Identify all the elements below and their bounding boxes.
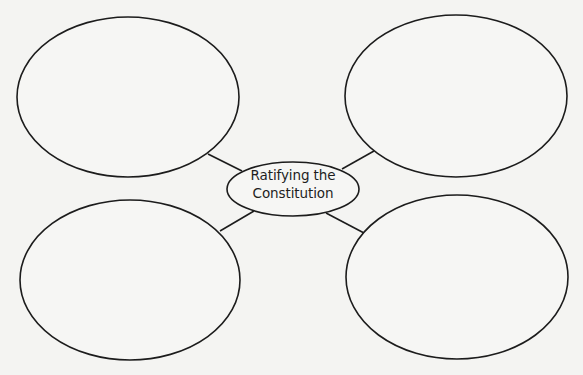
center-label-line-2: Constitution xyxy=(227,184,359,202)
bubble-bottom-left[interactable] xyxy=(20,200,240,360)
bubble-bottom-right[interactable] xyxy=(346,195,568,359)
center-label-line-1: Ratifying the xyxy=(227,166,359,184)
center-topic-label: Ratifying the Constitution xyxy=(227,166,359,202)
bubble-top-left[interactable] xyxy=(17,17,239,177)
worksheet-page: Ratifying the Constitution xyxy=(0,0,583,375)
connector-bottom-right xyxy=(326,213,364,233)
connector-bottom-left xyxy=(220,211,254,231)
bubble-top-right[interactable] xyxy=(345,15,567,177)
